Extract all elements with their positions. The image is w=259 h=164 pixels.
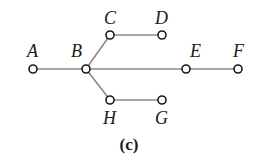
node-b bbox=[82, 65, 90, 73]
node-label-g: G bbox=[155, 108, 168, 128]
edge-b-c bbox=[86, 35, 110, 69]
node-e bbox=[182, 65, 190, 73]
nodes-group bbox=[29, 31, 242, 104]
node-label-a: A bbox=[26, 41, 39, 61]
node-label-e: E bbox=[189, 41, 201, 61]
node-label-f: F bbox=[232, 41, 245, 61]
node-h bbox=[106, 96, 114, 104]
tree-diagram: ABCDEFHG (c) bbox=[0, 0, 259, 164]
figure-caption: (c) bbox=[120, 135, 139, 154]
edge-b-h bbox=[86, 69, 110, 100]
node-a bbox=[29, 65, 37, 73]
edges-group bbox=[33, 35, 238, 100]
node-label-b: B bbox=[71, 41, 82, 61]
node-g bbox=[158, 96, 166, 104]
node-label-c: C bbox=[104, 8, 117, 28]
node-label-d: D bbox=[154, 8, 168, 28]
node-d bbox=[158, 31, 166, 39]
node-f bbox=[234, 65, 242, 73]
node-c bbox=[106, 31, 114, 39]
labels-group: ABCDEFHG bbox=[26, 8, 245, 128]
node-label-h: H bbox=[102, 108, 117, 128]
